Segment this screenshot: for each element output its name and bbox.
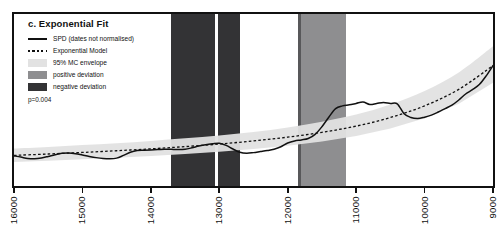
x-tick-mark-14000 xyxy=(150,188,152,193)
legend-item-negative: negative deviation xyxy=(28,82,188,93)
x-tick-label-11000: 11000 xyxy=(350,196,361,223)
legend-item-positive: positive deviation xyxy=(28,70,188,81)
light-swatch-icon xyxy=(28,59,47,67)
legend-item-envelope: 95% MC envelope xyxy=(28,58,188,69)
x-tick-mark-16000 xyxy=(13,188,15,193)
chart-legend: c. Exponential Fit SPD (dates not normal… xyxy=(28,18,188,103)
legend-label-model: Exponential Model xyxy=(53,47,107,55)
dashed-line-icon xyxy=(28,47,47,55)
solid-line-icon xyxy=(28,35,47,43)
legend-item-spd: SPD (dates not normalised) xyxy=(28,34,188,45)
x-tick-label-14000: 14000 xyxy=(145,196,156,224)
x-tick-mark-15000 xyxy=(82,188,84,193)
exponential-fit-figure: c. Exponential Fit SPD (dates not normal… xyxy=(0,0,502,243)
x-tick-label-13000: 13000 xyxy=(213,196,224,224)
legend-label-negative: negative deviation xyxy=(53,83,106,91)
panel-label: c. Exponential Fit xyxy=(28,18,188,29)
x-tick-label-15000: 15000 xyxy=(76,196,87,224)
legend-label-envelope: 95% MC envelope xyxy=(53,59,107,67)
p-value-annotation: p=0.004 xyxy=(28,96,188,103)
x-tick-mark-11000 xyxy=(355,188,357,193)
legend-label-spd: SPD (dates not normalised) xyxy=(53,35,134,43)
x-tick-mark-10000 xyxy=(424,188,426,193)
x-tick-label-9000: 9000 xyxy=(487,196,498,219)
legend-item-model: Exponential Model xyxy=(28,46,188,57)
x-tick-mark-9000 xyxy=(492,188,494,193)
dark-swatch-icon xyxy=(28,83,47,91)
x-tick-label-10000: 10000 xyxy=(419,196,430,224)
medium-swatch-icon xyxy=(28,71,47,79)
x-tick-mark-12000 xyxy=(287,188,289,193)
x-tick-label-16000: 16000 xyxy=(8,196,19,224)
x-tick-label-12000: 12000 xyxy=(282,196,293,224)
x-tick-mark-13000 xyxy=(218,188,220,193)
legend-label-positive: positive deviation xyxy=(53,71,104,79)
